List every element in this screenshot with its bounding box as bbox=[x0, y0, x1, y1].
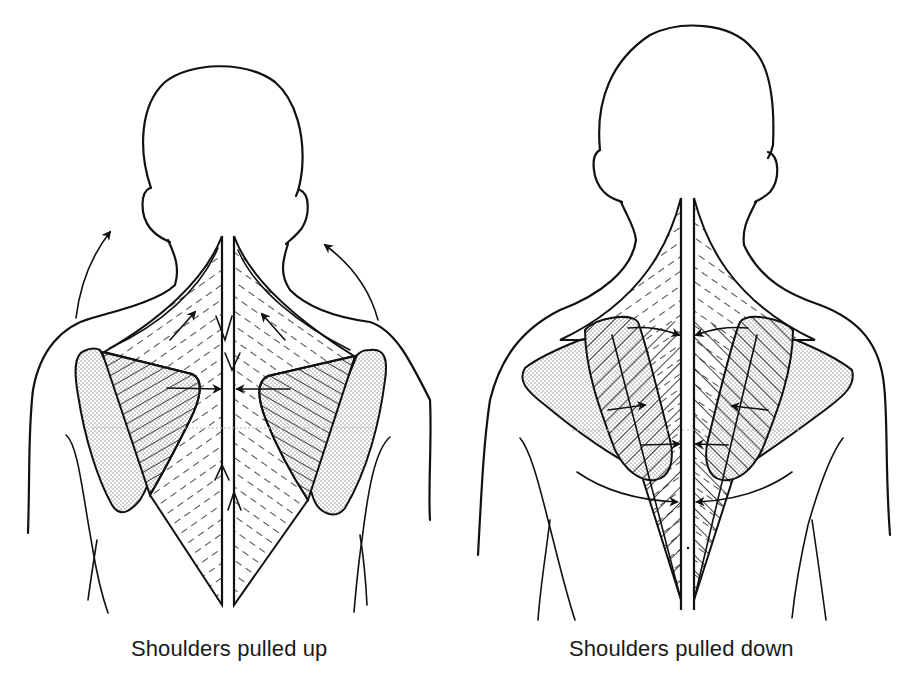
right-lower-torso bbox=[360, 535, 367, 605]
left-inner-arm bbox=[520, 438, 575, 620]
caption-shoulders-up: Shoulders pulled up bbox=[131, 636, 327, 662]
head-outline bbox=[143, 66, 302, 196]
head-outline bbox=[599, 26, 773, 158]
arrow-converge-middle-left-icon bbox=[642, 444, 679, 445]
right-ear bbox=[286, 190, 308, 244]
right-ear bbox=[755, 152, 777, 202]
left-lower-torso bbox=[538, 520, 550, 620]
arrow-converge-left-icon bbox=[167, 388, 220, 389]
curved-arrow-up-right-icon bbox=[325, 245, 378, 320]
figure-shoulders-up bbox=[28, 66, 431, 613]
anatomy-illustration bbox=[0, 0, 908, 683]
curved-arrow-up-left-icon bbox=[76, 232, 110, 318]
right-lower-torso bbox=[812, 520, 826, 620]
arrow-converge-middle-right-icon bbox=[696, 444, 728, 445]
left-ear bbox=[143, 188, 171, 242]
figure-shoulders-down bbox=[478, 26, 890, 620]
caption-shoulders-down: Shoulders pulled down bbox=[569, 636, 794, 662]
right-inner-arm bbox=[792, 438, 843, 618]
left-ear bbox=[594, 150, 622, 202]
diagram-canvas: Shoulders pulled up Shoulders pulled dow… bbox=[0, 0, 908, 683]
